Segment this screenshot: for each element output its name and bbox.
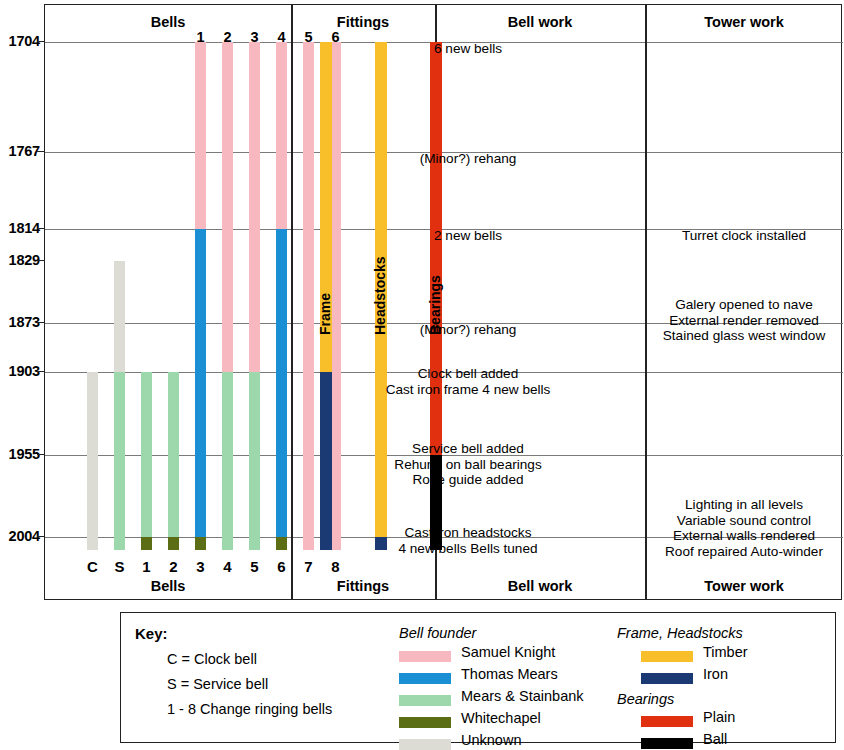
year-tick-1829 — [37, 260, 44, 261]
bell-column-label-2: 2 — [160, 558, 187, 575]
bell-bar-7 — [303, 5, 314, 601]
bell-work-event-line: (Minor?) rehang — [293, 151, 643, 167]
legend-swatch-thomas-mears — [399, 673, 451, 684]
year-tick-1814 — [37, 228, 44, 229]
legend-label-whitechapel: Whitechapel — [461, 710, 541, 726]
bell-work-event-line: Cast iron frame 4 new bells — [293, 382, 643, 398]
bell-segment-3-thomas-mears — [195, 229, 206, 550]
bell-segment-6-samuel-knight — [276, 42, 287, 229]
bell-segment-3-whitechapel — [195, 537, 206, 550]
legend-note-1: C = Clock bell — [167, 651, 257, 667]
bell-bar-6 — [276, 5, 287, 601]
bell-column-top-label-2: 2 — [214, 29, 241, 45]
tower-work-event-line: Roof repaired Auto-winder — [647, 544, 841, 560]
legend-swatch-iron — [641, 673, 693, 684]
year-tick-2004 — [37, 536, 44, 537]
bell-segment-5-mears-stainbank — [249, 372, 260, 550]
bell-segment-1-whitechapel — [141, 537, 152, 550]
tower-work-event-line: External walls rendered — [647, 528, 841, 544]
bell-work-event-line: (Minor?) rehang — [293, 322, 643, 338]
bell-segment-3-samuel-knight — [195, 42, 206, 229]
legend-swatch-plain — [641, 716, 693, 727]
tower-work-event-line: Turret clock installed — [647, 228, 841, 244]
year-tick-1767 — [37, 151, 44, 152]
bell-bar-5 — [249, 5, 260, 601]
tower-work-event-1873: Galery opened to naveExternal render rem… — [647, 297, 841, 344]
legend-label-ball: Ball — [703, 731, 727, 747]
bell-bar-1 — [141, 5, 152, 601]
bell-column-label-4: 4 — [214, 558, 241, 575]
legend-label-iron: Iron — [703, 666, 728, 682]
bell-work-event-line: Rehung on ball bearings — [293, 457, 643, 473]
bell-bar-3 — [195, 5, 206, 601]
panel-footer-bell-work: Bell work — [435, 578, 645, 594]
bell-column-label-6: 6 — [268, 558, 295, 575]
bell-column-label-5: 5 — [241, 558, 268, 575]
bell-segment-2-mears-stainbank — [168, 372, 179, 550]
bell-work-event-line: 4 new bells Bells tuned — [293, 541, 643, 557]
legend-note-3: 1 - 8 Change ringing bells — [167, 701, 332, 717]
tower-work-event-line: Stained glass west window — [647, 328, 841, 344]
panel-header-tower-work: Tower work — [645, 14, 843, 30]
bell-segment-S-unknown — [114, 261, 125, 372]
bell-bar-S — [114, 5, 125, 601]
year-label-1955: 1955 — [0, 446, 40, 462]
bell-work-event-line: 2 new bells — [293, 228, 643, 244]
bell-bar-4 — [222, 5, 233, 601]
tower-work-event-line: External render removed — [647, 313, 841, 329]
legend-swatch-ball — [641, 738, 693, 749]
bell-work-event-1704: 6 new bells — [293, 41, 643, 57]
bell-work-event-line: Rope guide added — [293, 472, 643, 488]
bell-work-event-1767: (Minor?) rehang — [293, 151, 643, 167]
legend-key-title: Key: — [135, 625, 168, 642]
bell-column-label-7: 7 — [295, 558, 322, 575]
bell-work-event-1873: (Minor?) rehang — [293, 322, 643, 338]
bell-column-top-label-3: 3 — [241, 29, 268, 45]
panel-footer-tower-work: Tower work — [645, 578, 843, 594]
bell-work-event-1955: Service bell addedRehung on ball bearing… — [293, 441, 643, 488]
legend-box: Key: C = Clock bellS = Service bell1 - 8… — [120, 612, 836, 743]
legend-frame-heading: Frame, Headstocks — [617, 625, 743, 641]
year-label-1704: 1704 — [0, 33, 40, 49]
chart-frame: BellsBellsFittingsFittingsBell workBell … — [44, 4, 842, 600]
year-tick-1873 — [37, 322, 44, 323]
bell-column-top-label-1: 1 — [187, 29, 214, 45]
legend-label-plain: Plain — [703, 709, 735, 725]
bell-column-label-3: 3 — [187, 558, 214, 575]
bell-segment-5-samuel-knight — [249, 42, 260, 372]
bell-column-top-label-4: 4 — [268, 29, 295, 45]
legend-swatch-timber — [641, 651, 693, 662]
bell-segment-S-mears-stainbank — [114, 372, 125, 550]
year-tick-1903 — [37, 371, 44, 372]
tower-work-event-line: Galery opened to nave — [647, 297, 841, 313]
bell-work-event-line: 6 new bells — [293, 41, 643, 57]
bell-segment-C-unknown — [87, 372, 98, 550]
legend-swatch-unknown — [399, 739, 451, 750]
legend-label-thomas-mears: Thomas Mears — [461, 666, 558, 682]
year-label-1767: 1767 — [0, 143, 40, 159]
tower-work-event-line: Lighting in all levels — [647, 497, 841, 513]
tower-work-event-2004: Lighting in all levelsVariable sound con… — [647, 497, 841, 559]
legend-label-timber: Timber — [703, 644, 748, 660]
legend-label-mears-stainbank: Mears & Stainbank — [461, 688, 584, 704]
year-label-2004: 2004 — [0, 528, 40, 544]
year-label-1873: 1873 — [0, 314, 40, 330]
bell-work-event-line: Cast iron headstocks — [293, 525, 643, 541]
year-tick-1704 — [37, 41, 44, 42]
legend-swatch-mears-stainbank — [399, 695, 451, 706]
panel-divider-1 — [291, 5, 293, 599]
year-label-1903: 1903 — [0, 363, 40, 379]
panel-header-bell-work: Bell work — [435, 14, 645, 30]
bell-column-label-C: C — [79, 558, 106, 575]
legend-label-unknown: Unknown — [461, 732, 521, 748]
legend-note-2: S = Service bell — [167, 676, 268, 692]
legend-swatch-whitechapel — [399, 717, 451, 728]
bell-segment-6-whitechapel — [276, 537, 287, 550]
bell-column-label-S: S — [106, 558, 133, 575]
bell-segment-4-samuel-knight — [222, 42, 233, 372]
bell-work-event-1903: Clock bell addedCast iron frame 4 new be… — [293, 366, 643, 397]
year-tick-1955 — [37, 454, 44, 455]
bell-work-event-line: Clock bell added — [293, 366, 643, 382]
legend-swatch-samuel-knight — [399, 651, 451, 662]
